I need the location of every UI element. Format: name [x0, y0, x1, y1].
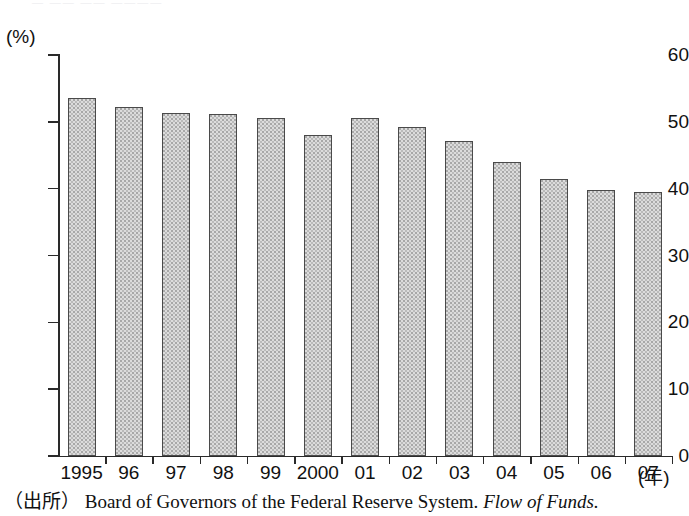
- source-note: （出所） Board of Governors of the Federal R…: [4, 486, 599, 513]
- y-tick-mark: [48, 255, 58, 256]
- y-tick-mark: [48, 121, 58, 122]
- bar: [209, 114, 237, 456]
- bar: [634, 192, 662, 456]
- y-tick-mark: [48, 455, 58, 456]
- bar: [304, 135, 332, 456]
- source-body-text: Board of Governors of the Federal Reserv…: [85, 491, 479, 512]
- bar: [445, 141, 473, 456]
- y-tick-mark: [48, 388, 58, 389]
- source-publication-title: Flow of Funds.: [483, 491, 599, 512]
- bar: [68, 98, 96, 456]
- bar: [162, 113, 190, 456]
- bar: [351, 118, 379, 456]
- y-tick-mark: [48, 322, 58, 323]
- bar: [115, 107, 143, 456]
- bar: [398, 127, 426, 456]
- y-tick-mark: [48, 54, 58, 55]
- y-axis-line: [58, 54, 60, 457]
- bar: [587, 190, 615, 456]
- y-tick-mark: [48, 188, 58, 189]
- bar-chart: 0102030405060 19959697989920000102030405…: [0, 0, 689, 516]
- y-tick-label: 60: [645, 45, 689, 64]
- x-axis-unit-label: (年): [638, 462, 670, 489]
- bar: [493, 162, 521, 456]
- bar: [540, 179, 568, 456]
- y-tick-label: 50: [645, 112, 689, 131]
- bar: [257, 118, 285, 456]
- source-tag-label: （出所）: [4, 491, 80, 512]
